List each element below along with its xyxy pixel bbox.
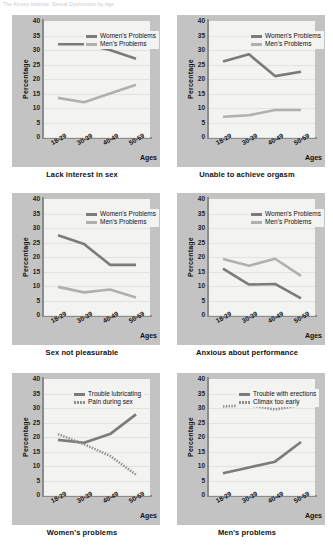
y-tick: 5 [201, 297, 205, 304]
y-tick: 30 [33, 405, 40, 412]
x-tick-labels: 18-2930-3940-4950-59 [209, 139, 315, 163]
y-tick: 40 [198, 376, 205, 383]
legend-item: Women's Problems [86, 32, 156, 40]
legend-item: Trouble lubricating [74, 390, 141, 398]
chart-title-wrap: Anxious about performance [173, 343, 321, 359]
y-tick: 0 [36, 134, 40, 141]
y-tick: 30 [198, 225, 205, 232]
y-tick: 20 [198, 434, 205, 441]
legend-swatch-icon [74, 401, 85, 404]
y-tick: 30 [198, 405, 205, 412]
chart-legend: Women's ProblemsMen's Problems [249, 209, 324, 227]
x-tick-labels: 18-2930-3940-4950-59 [44, 497, 150, 521]
x-axis-label: Ages [305, 332, 322, 339]
legend-label: Trouble with erections [253, 390, 316, 397]
chart-legend: Trouble with erectionsClimax too early [237, 389, 319, 407]
y-tick: 35 [198, 32, 205, 39]
legend-swatch-icon [86, 35, 97, 38]
y-tick: 15 [33, 448, 40, 455]
y-axis-label: Percentage [22, 59, 29, 99]
plot-region: Women's ProblemsMen's Problems [44, 199, 150, 315]
chart-title: Unable to achieve orgasm [173, 170, 321, 179]
y-tick: 35 [198, 210, 205, 217]
series-line [58, 235, 136, 265]
legend-item: Men's Problems [86, 40, 156, 48]
y-tick: 20 [198, 76, 205, 83]
legend-item: Climax too early [239, 398, 316, 406]
legend-swatch-icon [239, 401, 250, 404]
legend-label: Men's Problems [265, 218, 311, 225]
legend-label: Trouble lubricating [88, 390, 141, 397]
y-tick: 0 [201, 312, 205, 319]
legend-label: Men's Problems [100, 218, 146, 225]
legend-label: Women's Problems [265, 32, 321, 39]
y-tick: 0 [36, 312, 40, 319]
chart-area: 4035302520151050PercentageWomen's Proble… [12, 193, 160, 345]
y-tick: 40 [198, 196, 205, 203]
y-tick: 10 [198, 105, 205, 112]
y-tick: 10 [198, 283, 205, 290]
y-tick: 25 [198, 61, 205, 68]
y-axis-label-wrap: Percentage [20, 29, 32, 129]
y-tick: 10 [33, 105, 40, 112]
legend-swatch-icon [251, 43, 262, 46]
y-tick: 30 [33, 47, 40, 54]
y-axis-label: Percentage [187, 417, 194, 457]
plot-region: Women's ProblemsMen's Problems [44, 21, 150, 137]
x-axis-label: Ages [140, 154, 157, 161]
plot-region: Trouble with erectionsClimax too early [209, 379, 315, 495]
y-axis-label-wrap: Percentage [20, 207, 32, 307]
y-tick: 0 [201, 492, 205, 499]
chart-legend: Women's ProblemsMen's Problems [249, 31, 324, 49]
y-tick: 20 [198, 254, 205, 261]
chart-title: Anxious about performance [173, 348, 321, 357]
legend-label: Climax too early [253, 398, 300, 405]
chart-legend: Women's ProblemsMen's Problems [84, 31, 159, 49]
legend-item: Women's Problems [251, 32, 321, 40]
x-tick-labels: 18-2930-3940-4950-59 [44, 139, 150, 163]
y-tick: 20 [33, 76, 40, 83]
plot-region: Women's ProblemsMen's Problems [209, 199, 315, 315]
y-tick: 5 [201, 477, 205, 484]
chart-title: Women's problems [8, 528, 156, 537]
y-tick: 25 [33, 419, 40, 426]
legend-label: Women's Problems [265, 210, 321, 217]
y-tick: 40 [33, 376, 40, 383]
y-tick: 35 [33, 210, 40, 217]
plot-region: Trouble lubricatingPain during sex [44, 379, 150, 495]
y-tick: 10 [33, 283, 40, 290]
chart-legend: Trouble lubricatingPain during sex [72, 389, 144, 407]
legend-item: Women's Problems [251, 210, 321, 218]
y-tick: 15 [198, 90, 205, 97]
chart-area: 4035302520151050PercentageWomen's Proble… [12, 15, 160, 167]
y-tick: 5 [36, 477, 40, 484]
y-axis-label-wrap: Percentage [185, 387, 197, 487]
x-tick-labels: 18-2930-3940-4950-59 [209, 317, 315, 341]
chart-title-wrap: Men's problems [173, 523, 321, 539]
y-tick: 25 [33, 239, 40, 246]
legend-label: Women's Problems [100, 210, 156, 217]
series-line [223, 442, 301, 473]
y-tick: 20 [33, 434, 40, 441]
y-tick: 15 [198, 448, 205, 455]
y-tick: 20 [33, 254, 40, 261]
y-tick: 5 [201, 119, 205, 126]
y-tick: 0 [36, 492, 40, 499]
y-axis-label: Percentage [22, 237, 29, 277]
x-tick-labels: 18-2930-3940-4950-59 [209, 497, 315, 521]
series-line [58, 287, 136, 298]
series-line [58, 85, 136, 102]
legend-swatch-icon [251, 221, 262, 224]
series-line [223, 269, 301, 299]
y-tick: 40 [198, 18, 205, 25]
series-line [223, 110, 301, 117]
legend-swatch-icon [86, 221, 97, 224]
chart-area: 4035302520151050PercentageWomen's Proble… [177, 15, 325, 167]
y-axis-label: Percentage [187, 237, 194, 277]
y-tick: 35 [33, 32, 40, 39]
legend-swatch-icon [74, 393, 85, 396]
chart-title: Men's problems [173, 528, 321, 537]
chart-area: 4035302520151050PercentageTrouble with e… [177, 373, 325, 525]
chart-grid: 4035302520151050PercentageWomen's Proble… [0, 11, 333, 551]
legend-item: Men's Problems [86, 218, 156, 226]
